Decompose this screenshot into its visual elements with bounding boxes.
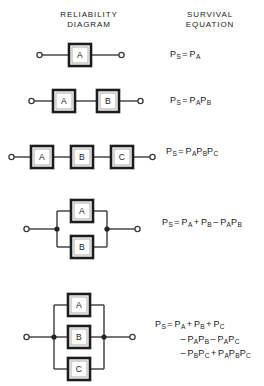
block-c-label: C bbox=[119, 152, 125, 162]
block-b-label: B bbox=[105, 96, 111, 106]
block-a-label: A bbox=[76, 300, 82, 310]
block-a-inner bbox=[71, 297, 87, 313]
row-series-two: A B bbox=[29, 90, 143, 112]
block-b-inner bbox=[74, 239, 90, 255]
block-a-label: A bbox=[77, 50, 83, 60]
survival-equation-1: PS=PA bbox=[170, 48, 200, 63]
eq1-t1-sub: A bbox=[196, 53, 200, 60]
terminal-right bbox=[130, 334, 135, 339]
block-a-label: A bbox=[61, 96, 67, 106]
survival-equation-5-line-2: –PAPB–PAPC bbox=[179, 333, 251, 348]
eq3-t3-sub: C bbox=[214, 150, 219, 157]
eq5-l1-op1: + bbox=[185, 319, 194, 329]
eq5-l2-t4-sub: C bbox=[235, 337, 240, 344]
block-b-inner bbox=[100, 93, 116, 109]
block-b-inner bbox=[74, 149, 90, 165]
terminal-left bbox=[24, 334, 29, 339]
terminal-left bbox=[29, 98, 34, 103]
block-a-inner bbox=[72, 47, 88, 63]
block-b-label: B bbox=[79, 152, 85, 162]
terminal-left bbox=[24, 226, 29, 231]
terminal-right bbox=[150, 154, 155, 159]
eq5-l3-t5-sub: C bbox=[246, 352, 251, 359]
junction-left bbox=[54, 226, 59, 231]
block-a-inner bbox=[56, 93, 72, 109]
block-c-label: C bbox=[76, 364, 82, 374]
block-b-inner bbox=[71, 329, 87, 345]
block-c bbox=[111, 146, 133, 168]
survival-equation-5-line-3: –PBPC+PAPBPC bbox=[179, 347, 251, 362]
eq4-t4-sub: B bbox=[237, 221, 241, 228]
row-parallel-three: A B C bbox=[24, 294, 135, 380]
eq4-op2: – bbox=[212, 217, 220, 227]
block-c bbox=[68, 358, 90, 380]
block-a bbox=[71, 200, 93, 222]
block-a bbox=[68, 294, 90, 316]
block-b bbox=[68, 326, 90, 348]
block-a-label: A bbox=[79, 206, 85, 216]
eq2-t2-sub: B bbox=[207, 99, 211, 106]
block-a-inner bbox=[34, 149, 50, 165]
junction-right bbox=[104, 226, 109, 231]
junction-right bbox=[101, 334, 106, 339]
eq4-op1: + bbox=[192, 217, 201, 227]
terminal-right bbox=[119, 52, 124, 57]
block-a bbox=[53, 90, 75, 112]
column-header-survival-equation: SURVIVAL EQUATION bbox=[158, 10, 262, 30]
block-a bbox=[31, 146, 53, 168]
block-c-inner bbox=[71, 361, 87, 377]
block-a-label: A bbox=[39, 152, 45, 162]
reliability-diagram-figure: RELIABILITY DIAGRAM SURVIVAL EQUATION A … bbox=[0, 0, 264, 386]
survival-equation-4: PS=PA+PB–PAPB bbox=[162, 216, 242, 231]
terminal-left bbox=[37, 52, 42, 57]
terminal-right bbox=[135, 226, 140, 231]
survival-equation-3: PS=PAPBPC bbox=[166, 145, 218, 160]
block-b bbox=[71, 236, 93, 258]
block-c-inner bbox=[114, 149, 130, 165]
block-a-inner bbox=[74, 203, 90, 219]
block-b-label: B bbox=[76, 332, 82, 342]
eq5-l1-t3-sub: C bbox=[220, 323, 225, 330]
block-b bbox=[97, 90, 119, 112]
block-b-label: B bbox=[79, 242, 85, 252]
row-series-three: A B C bbox=[9, 146, 155, 168]
survival-equation-5-line-1: PS=PA+PB+PC bbox=[155, 318, 251, 333]
eq5-l3-op1: + bbox=[209, 348, 218, 358]
block-a bbox=[69, 44, 91, 66]
junction-left bbox=[51, 334, 56, 339]
terminal-right bbox=[138, 98, 143, 103]
block-b bbox=[71, 146, 93, 168]
terminal-left bbox=[9, 154, 14, 159]
row-single-block: A bbox=[37, 44, 124, 66]
column-header-reliability-diagram: RELIABILITY DIAGRAM bbox=[24, 10, 154, 30]
survival-equation-2: PS=PAPB bbox=[170, 94, 211, 109]
row-parallel-two: A B bbox=[24, 200, 140, 258]
survival-equation-5: PS=PA+PB+PC –PAPB–PAPC –PBPC+PAPBPC bbox=[155, 318, 251, 362]
